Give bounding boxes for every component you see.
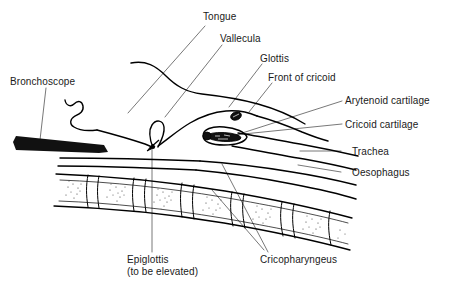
disc-separator: [281, 202, 283, 236]
label-cricoid-cartilage: Cricoid cartilage: [345, 119, 418, 131]
bronchoscope-shape: [13, 136, 108, 153]
label-front-of-cricoid: Front of cricoid: [268, 72, 336, 84]
trachea-upper-wall: [238, 133, 358, 156]
label-glottis: Glottis: [260, 53, 289, 65]
pharynx-to-oesophagus-line: [60, 158, 200, 161]
anatomical-diagram-figure: Tongue Vallecula Glottis Front of cricoi…: [0, 0, 449, 288]
leader-line-vallecula: [165, 45, 222, 117]
label-vallecula: Vallecula: [220, 33, 261, 45]
pharyngeal-wall-contour: [257, 116, 328, 141]
prevertebral-line: [58, 166, 196, 170]
label-trachea: Trachea: [352, 146, 389, 158]
leader-line-oesophagus: [298, 165, 341, 172]
disc-separator: [231, 192, 233, 226]
oesophagus-lower-wall: [196, 170, 356, 199]
label-oesophagus: Oesophagus: [352, 167, 410, 179]
label-tongue: Tongue: [203, 11, 236, 23]
mouth-floor-contour: [97, 130, 154, 148]
leader-line-tongue: [128, 26, 205, 113]
label-epiglottis: Epiglottis: [127, 254, 169, 266]
cricoid-cartilage-shape: [207, 132, 241, 143]
disc-separator: [243, 194, 245, 228]
front-of-cricoid-shape: [203, 132, 211, 140]
laryngeal-inlet-contour: [158, 111, 257, 146]
arytenoid-cartilage-shape: [229, 110, 242, 121]
leader-line-bronchoscope: [40, 88, 46, 140]
label-arytenoid-cartilage: Arytenoid cartilage: [345, 95, 430, 107]
vertebral-anterior-border: [56, 174, 352, 218]
lip-squiggle: [65, 100, 97, 131]
leader-line-cricopharyngeus: [222, 164, 268, 252]
disc-separator: [293, 204, 295, 238]
label-epiglottis-note: (to be elevated): [127, 266, 198, 278]
label-cricopharyngeus: Cricopharyngeus: [260, 254, 337, 266]
leader-line-arytenoid: [236, 101, 342, 135]
label-bronchoscope: Bronchoscope: [10, 76, 75, 88]
vertebral-body-inner-rim: [59, 201, 348, 244]
leader-line-cricopharyngeus-second: [212, 190, 264, 250]
